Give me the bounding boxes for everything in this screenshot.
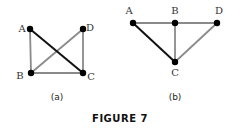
vertex-label-c: C: [171, 67, 179, 78]
edge-d-c: [175, 23, 217, 62]
vertex-b: [172, 20, 178, 26]
vertex-d: [214, 20, 220, 26]
vertex-label-d: D: [215, 5, 223, 16]
vertex-label-a: A: [17, 23, 26, 34]
graph-a-label: (a): [51, 92, 64, 102]
vertex-label-c: C: [87, 71, 95, 82]
vertex-c: [172, 59, 178, 65]
edge-a-c: [133, 23, 175, 62]
vertex-a: [130, 20, 136, 26]
vertex-label-b: B: [16, 70, 23, 81]
vertex-label-b: B: [171, 5, 178, 16]
vertex-c: [80, 70, 86, 76]
graph-b: ABDC: [124, 5, 223, 78]
vertex-b: [28, 70, 34, 76]
graph-a: ADBC: [16, 22, 95, 82]
figure-caption: FIGURE 7: [92, 113, 148, 124]
edge-a-b: [30, 29, 31, 73]
vertex-a: [27, 26, 33, 32]
vertex-label-a: A: [124, 5, 133, 16]
figure-7-diagram: ADBC ABDC (a) (b) FIGURE 7: [0, 0, 236, 131]
graph-b-label: (b): [169, 92, 182, 102]
vertex-label-d: D: [86, 22, 94, 33]
